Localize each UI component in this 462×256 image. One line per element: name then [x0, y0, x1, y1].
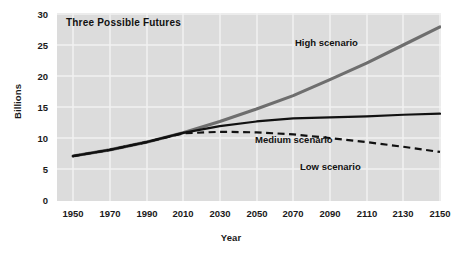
x-tick-label-2010: 2010: [163, 208, 203, 219]
x-tick-label-2130: 2130: [383, 208, 423, 219]
annotation-low-scenario: Low scenario: [300, 161, 361, 172]
y-tick-label-15: 15: [22, 102, 48, 113]
population-projection-chart: Billions 30 25 20 15 10 5 0: [0, 0, 462, 256]
y-tick-label-0: 0: [22, 195, 48, 206]
y-tick-label-25: 25: [22, 40, 48, 51]
x-tick-label-1990: 1990: [127, 208, 167, 219]
x-tick-label-2150: 2150: [420, 208, 460, 219]
annotation-medium-scenario: Medium scenario: [255, 134, 333, 145]
x-tick-label-2050: 2050: [237, 208, 277, 219]
x-tick-label-2110: 2110: [347, 208, 387, 219]
x-tick-label-2030: 2030: [200, 208, 240, 219]
y-tick-label-20: 20: [22, 71, 48, 82]
y-tick-label-30: 30: [22, 9, 48, 20]
x-tick-label-1970: 1970: [90, 208, 130, 219]
horizontal-gridlines: [57, 14, 441, 169]
x-tick-label-2090: 2090: [310, 208, 350, 219]
chart-title: Three Possible Futures: [66, 17, 181, 28]
y-tick-label-5: 5: [22, 164, 48, 175]
plot-area: High scenario Medium scenario Low scenar…: [57, 13, 441, 201]
y-axis-title: Billions: [12, 67, 23, 137]
x-tick-label-2070: 2070: [273, 208, 313, 219]
y-tick-label-10: 10: [22, 133, 48, 144]
chart-plot-svg: [57, 13, 441, 201]
x-tick-label-1950: 1950: [53, 208, 93, 219]
x-axis-title: Year: [0, 232, 462, 243]
annotation-high-scenario: High scenario: [295, 37, 358, 48]
